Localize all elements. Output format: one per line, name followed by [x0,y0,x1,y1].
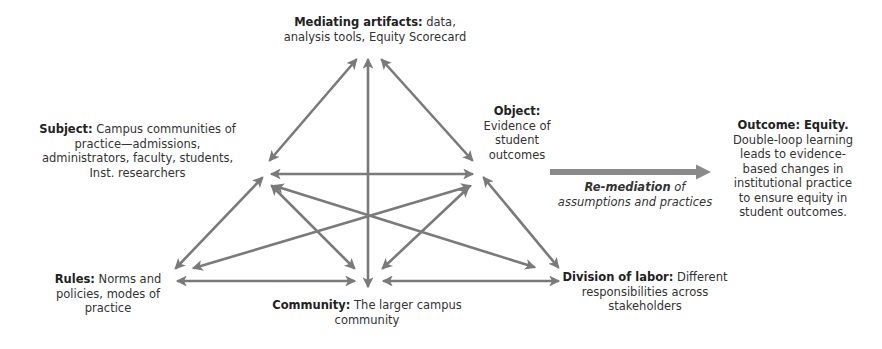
node-label: Object: [494,104,541,118]
node-label: Outcome: Equity. [737,118,848,132]
node-rules: Rules: Norms and policies, modes of prac… [48,272,168,316]
node-subject: Subject: Campus communities of practice—… [30,122,245,180]
edge-mediating-subject [270,60,356,160]
node-text: Double-loop learning leads to evidence-b… [733,133,853,220]
node-label: Subject: [39,122,92,136]
node-community: Community: The larger campus community [262,298,472,327]
node-text: Evidence of student outcomes [483,119,550,162]
node-label: Rules: [55,272,95,286]
node-outcome: Outcome: Equity. Double-loop learning le… [728,118,858,220]
node-object: Object: Evidence of student outcomes [476,104,558,162]
node-mediating-artifacts: Mediating artifacts: data, analysis tool… [280,15,470,44]
edge-object-rules [194,186,470,268]
node-label: Mediating artifacts: [294,15,422,29]
remediation-label: Re-mediation of assumptions and practice… [550,180,720,209]
node-label: Division of labor: [563,270,674,284]
node-text: The larger campus community [335,298,462,327]
node-division-of-labor: Division of labor: Different responsibil… [560,270,730,314]
node-label: Community: [272,298,350,312]
remediation-bold: Re-mediation [585,180,671,194]
edge-mediating-object [382,60,472,160]
edge-subject-rules [176,178,262,268]
